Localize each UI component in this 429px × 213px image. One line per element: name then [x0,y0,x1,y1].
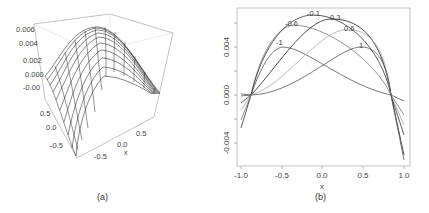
plot-frame [237,8,410,166]
x-axis-label: x [124,149,128,156]
x-tick: -1.0 [234,171,248,180]
x-tick: 0.0 [117,140,127,149]
series-line-0.6 [241,30,404,125]
z-axis-labels: 0.006 0.004 0.002 0.000 -0.00 [16,25,44,92]
x-tick: 0.0 [316,171,328,180]
x-axis-ticks [241,166,404,169]
x-tick: 1.0 [398,171,410,180]
x-tick: 0.5 [357,171,369,180]
y-tick: 0.5 [40,109,50,118]
caption-b: (b) [315,192,326,202]
panel-b-line-plot: -1.0 -0.5 0.0 0.5 1.0 x 0.004 0.000 -0.0… [215,0,429,213]
y-tick: 0.004 [222,36,231,57]
y-tick: -0.5 [50,141,63,150]
y-tick: 0.0 [46,123,56,132]
z-tick: 0.004 [19,39,38,48]
surface-plot-svg: 0.006 0.004 0.002 0.000 -0.00 0.5 0.0 -0… [0,0,215,213]
z-tick: 0.006 [16,25,35,34]
series-line-0.3 [241,19,404,155]
series-label: 0.6 [344,24,354,33]
z-tick: -0.00 [23,83,40,92]
caption-a: (a) [97,192,108,202]
series-label: -0.1 [307,9,320,18]
x-tick: -0.5 [94,152,107,161]
surface-box [34,14,173,158]
y-axis-labels: 0.004 0.000 -0.004 [222,36,231,154]
y-axis-labels: 0.5 0.0 -0.5 [40,109,63,150]
panel-a-surface-plot: 0.006 0.004 0.002 0.000 -0.00 0.5 0.0 -0… [0,0,215,213]
x-tick: 0.5 [136,129,146,138]
series-lines [241,15,404,160]
z-tick: 0.000 [25,70,44,79]
series-line--0.1 [241,15,404,135]
y-axis-ticks [234,23,237,143]
y-tick: 0.000 [222,84,231,105]
z-tick: 0.002 [23,56,42,65]
y-tick: -0.004 [222,131,231,154]
series-label: 1 [359,41,363,50]
line-plot-svg: -1.0 -0.5 0.0 0.5 1.0 x 0.004 0.000 -0.0… [215,0,429,213]
series-label: 0.3 [330,13,340,22]
series-line--0.6 [241,25,404,120]
series-label: -1 [276,38,283,47]
x-axis-title: x [320,182,324,191]
series-labels: -1 -0.6 -0.1 0.3 0.6 1 [276,9,363,50]
x-axis-labels: -1.0 -0.5 0.0 0.5 1.0 x [234,171,410,191]
x-tick: -0.5 [275,171,289,180]
series-label: -0.6 [285,19,298,28]
